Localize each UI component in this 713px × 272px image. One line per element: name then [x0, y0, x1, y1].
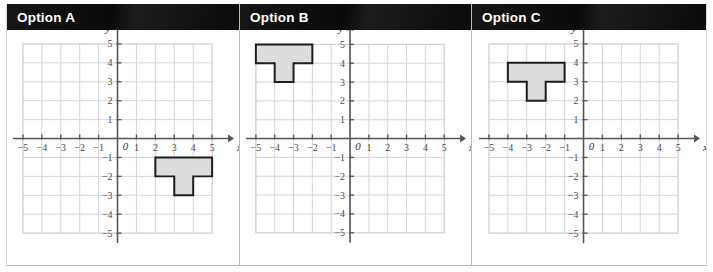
x-tick-label: −4 [503, 142, 514, 153]
x-tick-label: −3 [288, 142, 299, 153]
coordinate-plane-option-b: −5−4−3−2−112345−5−4−3−2−1123450xy [240, 30, 471, 265]
y-tick-label: 2 [574, 95, 579, 106]
y-tick-label: −1 [568, 152, 579, 163]
origin-label: 0 [123, 140, 129, 152]
y-tick-label: −3 [335, 190, 346, 201]
x-tick-label: 3 [638, 142, 643, 153]
origin-label: 0 [589, 140, 595, 152]
x-tick-label: 1 [600, 142, 605, 153]
y-tick-label: 1 [108, 114, 113, 125]
y-tick-label: −1 [102, 152, 113, 163]
x-tick-label: 5 [442, 142, 447, 153]
x-tick-label: 5 [210, 142, 215, 153]
panel-header-option-b: Option B [240, 4, 471, 30]
y-tick-label: −4 [102, 209, 113, 220]
y-axis-arrow-icon [346, 30, 354, 31]
y-tick-label: −4 [335, 208, 346, 219]
x-tick-label: −2 [74, 142, 85, 153]
y-tick-label: 1 [340, 114, 345, 125]
y-tick-label: 2 [108, 95, 113, 106]
x-tick-label: −4 [269, 142, 280, 153]
graph-svg-option-b: −5−4−3−2−112345−5−4−3−2−1123450xy [240, 30, 471, 265]
y-tick-label: −1 [335, 152, 346, 163]
t-shape-polygon [508, 63, 565, 101]
t-shape-polygon [155, 157, 212, 195]
panel-option-a: Option A −5−4−3−2−112345−5−4−3−2−1123450… [7, 4, 240, 265]
x-tick-label: 3 [404, 142, 409, 153]
y-tick-label: −3 [102, 190, 113, 201]
axes [13, 30, 234, 243]
graph-svg-option-a: −5−4−3−2−112345−5−4−3−2−1123450xy [7, 30, 239, 265]
x-axis-arrow-icon [460, 135, 466, 143]
panel-title-option-b: Option B [240, 10, 309, 25]
x-axis-label: x [702, 141, 706, 153]
y-tick-label: −2 [568, 171, 579, 182]
y-tick-label: 5 [340, 39, 345, 50]
t-shape-polygon [256, 44, 313, 82]
y-tick-label: 3 [574, 76, 579, 87]
y-axis-label: y [337, 30, 343, 34]
coordinate-plane-option-c: −5−4−3−2−112345−5−4−3−2−1123450xy [472, 30, 706, 265]
x-tick-label: 1 [366, 142, 371, 153]
x-axis-arrow-icon [228, 135, 234, 143]
y-tick-label: 5 [574, 38, 579, 49]
x-tick-label: 3 [172, 142, 177, 153]
x-tick-label: −5 [18, 142, 29, 153]
origin-label: 0 [355, 140, 361, 152]
x-tick-label: −3 [521, 142, 532, 153]
y-tick-label: 2 [340, 95, 345, 106]
panel-row: Option A −5−4−3−2−112345−5−4−3−2−1123450… [6, 4, 707, 266]
y-tick-label: −2 [102, 171, 113, 182]
x-tick-label: −5 [484, 142, 495, 153]
y-tick-label: −4 [568, 209, 579, 220]
y-tick-label: 5 [108, 38, 113, 49]
coordinate-plane-option-a: −5−4−3−2−112345−5−4−3−2−1123450xy [7, 30, 239, 265]
y-tick-label: 1 [574, 114, 579, 125]
x-tick-label: 5 [676, 142, 681, 153]
x-tick-label: −2 [307, 142, 318, 153]
y-axis-label: y [105, 30, 111, 34]
y-tick-label: 3 [340, 77, 345, 88]
x-tick-label: 1 [134, 142, 139, 153]
x-tick-label: 4 [657, 142, 662, 153]
x-tick-label: 4 [191, 142, 196, 153]
graph-svg-option-c: −5−4−3−2−112345−5−4−3−2−1123450xy [472, 30, 706, 265]
panel-title-option-a: Option A [7, 10, 75, 25]
panel-header-option-a: Option A [7, 4, 239, 30]
y-tick-label: −5 [568, 228, 579, 239]
x-tick-label: 2 [153, 142, 158, 153]
options-comparison-figure: Option A −5−4−3−2−112345−5−4−3−2−1123450… [0, 0, 713, 272]
x-tick-label: −3 [55, 142, 66, 153]
panel-header-option-c: Option C [472, 4, 706, 30]
x-tick-label: 4 [423, 142, 428, 153]
y-axis-label: y [571, 30, 577, 34]
y-tick-label: −3 [568, 190, 579, 201]
y-tick-label: 4 [108, 57, 113, 68]
panel-title-option-c: Option C [472, 10, 541, 25]
panel-option-c: Option C −5−4−3−2−112345−5−4−3−2−1123450… [472, 4, 706, 265]
x-axis-arrow-icon [694, 135, 700, 143]
y-tick-label: 4 [340, 58, 345, 69]
y-tick-label: 3 [108, 76, 113, 87]
x-tick-label: −4 [37, 142, 48, 153]
x-axis-label: x [468, 141, 471, 153]
panel-option-b: Option B −5−4−3−2−112345−5−4−3−2−1123450… [240, 4, 472, 265]
y-tick-label: −5 [335, 227, 346, 238]
x-tick-label: 2 [619, 142, 624, 153]
x-tick-label: 2 [385, 142, 390, 153]
y-tick-label: 4 [574, 57, 579, 68]
y-tick-label: −2 [335, 171, 346, 182]
x-tick-label: −5 [251, 142, 262, 153]
x-tick-label: −2 [540, 142, 551, 153]
x-axis-label: x [236, 141, 239, 153]
y-tick-label: −5 [102, 228, 113, 239]
